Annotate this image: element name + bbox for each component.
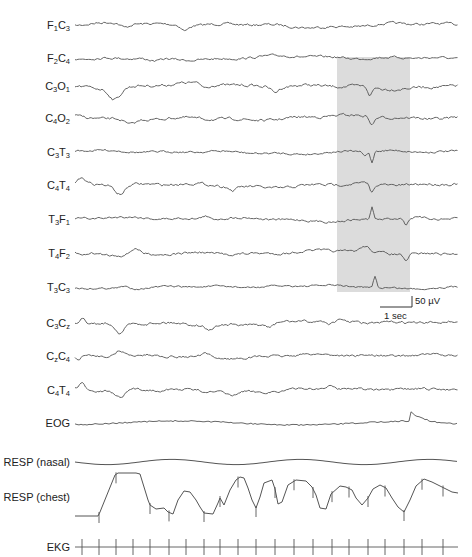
amplitude-scale-label: 50 µV [415, 295, 440, 306]
time-scale-label: 1 sec [384, 310, 407, 321]
scale-bar [0, 0, 472, 557]
polysomnogram-figure: F1C3F2C4C3O1C4O2C3T3C4T4T3F1T4F2T3C3C3Cz… [0, 0, 472, 557]
